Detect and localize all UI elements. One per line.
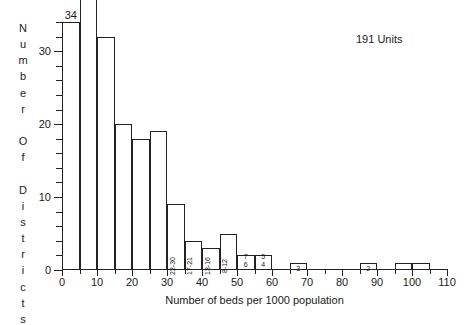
y-axis-title-letter: O bbox=[16, 133, 30, 149]
bar-bin-label: 22-30 bbox=[169, 257, 176, 275]
y-axis-title-letter: r bbox=[16, 101, 30, 117]
bar-bin-label-line: 7 bbox=[244, 253, 248, 260]
histogram-bar: 76 bbox=[237, 255, 255, 270]
y-axis-title-letter: t bbox=[16, 295, 30, 311]
x-axis-title: Number of beds per 1000 population bbox=[62, 294, 447, 306]
x-tick-major bbox=[307, 269, 308, 276]
y-tick-major bbox=[54, 197, 62, 198]
x-tick-label: 0 bbox=[59, 277, 65, 288]
bar-bin-label: 76 bbox=[244, 253, 248, 268]
y-axis-title-letter: i bbox=[16, 262, 30, 278]
x-tick-label: 50 bbox=[231, 277, 243, 288]
x-tick-major bbox=[377, 269, 378, 276]
y-tick-label: 30 bbox=[39, 46, 51, 57]
histogram-bar bbox=[132, 139, 150, 270]
y-tick-major bbox=[54, 51, 62, 52]
x-tick-label: 60 bbox=[266, 277, 278, 288]
x-tick-label: 10 bbox=[91, 277, 103, 288]
y-tick-label: 10 bbox=[39, 192, 51, 203]
y-axis-title-letter bbox=[16, 165, 30, 181]
x-tick-major bbox=[272, 269, 273, 276]
x-tick-major bbox=[62, 269, 63, 276]
y-axis-title-letter: s bbox=[16, 311, 30, 325]
x-tick-minor bbox=[325, 269, 326, 274]
histogram-bar bbox=[412, 263, 430, 270]
bar-bin-label: 54 bbox=[261, 253, 265, 268]
histogram-bar: 39 bbox=[80, 0, 98, 270]
histogram-bar: 17-21 bbox=[185, 241, 203, 270]
y-axis-title-letter: N bbox=[16, 20, 30, 36]
x-tick-label: 30 bbox=[161, 277, 173, 288]
bar-bin-label: 3 bbox=[296, 265, 300, 272]
x-tick-label: 80 bbox=[336, 277, 348, 288]
x-tick-major bbox=[202, 269, 203, 276]
y-axis-title-letter: D bbox=[16, 182, 30, 198]
histogram-bar bbox=[97, 37, 115, 270]
x-tick-minor bbox=[430, 269, 431, 274]
plot-area: 0102030 0102030405060708090100110 343922… bbox=[62, 22, 447, 270]
x-tick-major bbox=[412, 269, 413, 276]
y-axis-title-letter: f bbox=[16, 149, 30, 165]
y-axis-title-letter: s bbox=[16, 214, 30, 230]
x-tick-major bbox=[167, 269, 168, 276]
y-tick-label: 20 bbox=[39, 119, 51, 130]
bar-bin-label-line: 4 bbox=[261, 261, 265, 268]
histogram-bar bbox=[115, 124, 133, 270]
histogram-bar: 13-16 bbox=[202, 248, 220, 270]
y-axis-title: Number Of Districts bbox=[16, 20, 30, 325]
histogram-bar: 34 bbox=[62, 22, 80, 270]
histogram-bar: 54 bbox=[255, 255, 273, 270]
x-tick-label: 70 bbox=[301, 277, 313, 288]
y-axis-title-letter: u bbox=[16, 36, 30, 52]
x-tick-major bbox=[132, 269, 133, 276]
x-tick-label: 40 bbox=[196, 277, 208, 288]
bar-value-label: 34 bbox=[65, 10, 77, 21]
histogram-bar: 3 bbox=[290, 263, 308, 270]
y-tick-major bbox=[54, 270, 62, 271]
bar-bin-label: 2 bbox=[366, 265, 370, 272]
histogram-chart: Number Of Districts 191 Units 0102030 01… bbox=[0, 0, 470, 325]
x-tick-major bbox=[97, 269, 98, 276]
y-axis-title-letter: c bbox=[16, 279, 30, 295]
x-tick-major bbox=[447, 269, 448, 276]
x-tick-label: 110 bbox=[438, 277, 456, 288]
x-tick-major bbox=[342, 269, 343, 276]
bar-bin-label: 8-12 bbox=[221, 259, 228, 273]
bar-bin-label: 13-16 bbox=[204, 257, 211, 275]
bar-bin-label-line: 6 bbox=[244, 261, 248, 268]
y-axis-title-letter: i bbox=[16, 198, 30, 214]
y-tick-label: 0 bbox=[45, 265, 51, 276]
x-tick-label: 90 bbox=[371, 277, 383, 288]
histogram-bar: 22-30 bbox=[167, 204, 185, 270]
y-axis-title-letter: t bbox=[16, 230, 30, 246]
bar-bin-label: 17-21 bbox=[186, 257, 193, 275]
histogram-bar bbox=[395, 263, 413, 270]
histogram-bar: 8-12 bbox=[220, 234, 238, 270]
histogram-bar: 2 bbox=[360, 263, 378, 270]
y-axis-title-letter: m bbox=[16, 52, 30, 68]
y-axis-title-letter bbox=[16, 117, 30, 133]
bar-bin-label-line: 5 bbox=[261, 253, 265, 260]
y-axis-title-letter: b bbox=[16, 68, 30, 84]
x-tick-label: 100 bbox=[403, 277, 421, 288]
x-tick-label: 20 bbox=[126, 277, 138, 288]
y-tick-major bbox=[54, 124, 62, 125]
y-axis-title-letter: r bbox=[16, 246, 30, 262]
histogram-bar bbox=[150, 131, 168, 270]
x-tick-major bbox=[237, 269, 238, 276]
y-axis-title-letter: e bbox=[16, 85, 30, 101]
